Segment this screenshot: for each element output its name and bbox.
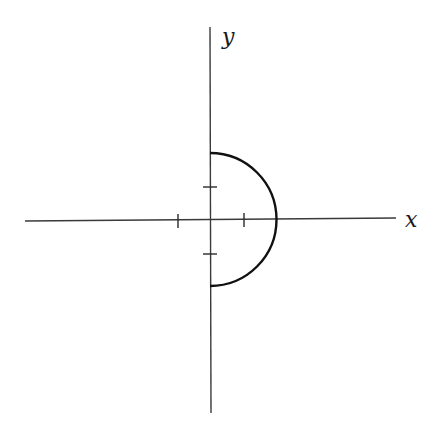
x-axis-label: x [405,207,418,232]
semicircle-diagram: y x [0,0,439,429]
y-axis [210,27,211,413]
y-axis-label: y [221,24,235,49]
